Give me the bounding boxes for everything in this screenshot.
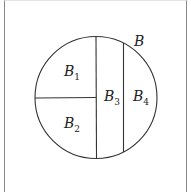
- region-label-b2: B2: [63, 115, 80, 134]
- divider-vertical-center: [96, 37, 97, 159]
- partition-diagram: B B1 B2 B3 B4: [0, 0, 191, 192]
- divider-horizontal-left: [35, 98, 96, 99]
- region-label-b3: B3: [103, 88, 120, 107]
- set-label-b: B: [133, 33, 144, 49]
- region-label-b4: B4: [132, 88, 149, 107]
- region-label-b1: B1: [63, 63, 80, 82]
